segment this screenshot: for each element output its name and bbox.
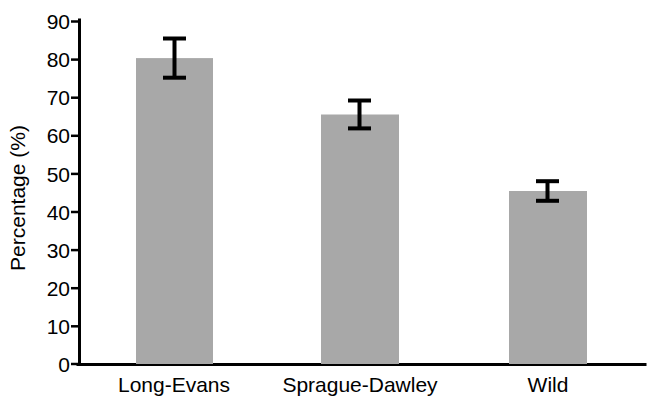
- y-tick-label-20: 20: [47, 277, 70, 300]
- x-tick-label-long-evans: Long-Evans: [118, 373, 230, 396]
- x-axis-category-labels: Long-Evans Sprague-Dawley Wild: [118, 373, 568, 396]
- y-tick-label-40: 40: [47, 201, 70, 224]
- y-axis-tick-labels: 90 80 70 60 50 40 30 20 10 0: [47, 10, 70, 376]
- y-tick-label-0: 0: [58, 353, 70, 376]
- chart-canvas: 90 80 70 60 50 40 30 20 10 0: [0, 0, 658, 406]
- bar-sprague-dawley: [321, 115, 399, 365]
- y-axis-tick-marks: [71, 22, 78, 365]
- bar-chart-figure: 90 80 70 60 50 40 30 20 10 0: [0, 0, 658, 406]
- x-tick-label-sprague-dawley: Sprague-Dawley: [282, 373, 438, 396]
- y-axis-title: Percentage (%): [6, 125, 29, 271]
- y-tick-label-30: 30: [47, 239, 70, 262]
- y-tick-label-10: 10: [47, 315, 70, 338]
- y-tick-label-50: 50: [47, 163, 70, 186]
- x-tick-label-wild: Wild: [528, 373, 569, 396]
- bar-wild: [509, 191, 587, 364]
- y-tick-label-90: 90: [47, 10, 70, 33]
- bar-long-evans: [136, 58, 213, 364]
- y-tick-label-60: 60: [47, 124, 70, 147]
- y-tick-label-80: 80: [47, 48, 70, 71]
- y-tick-label-70: 70: [47, 86, 70, 109]
